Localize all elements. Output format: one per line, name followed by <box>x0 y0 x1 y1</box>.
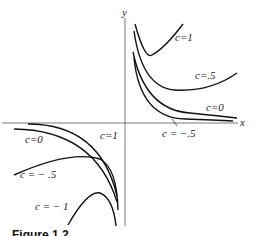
label-c1-right: c=1 <box>175 31 193 43</box>
figure-caption: Figure 1.2 <box>12 228 69 236</box>
label-c0-right: c=0 <box>206 101 224 113</box>
y-axis-label: y <box>122 6 127 18</box>
label-c1-left: c=1 <box>100 129 118 141</box>
label-c05-right: c=.5 <box>195 69 216 81</box>
figure: y x c=1 c=.5 c=0 c = −.5 c=0 c=1 c = − .… <box>0 0 256 236</box>
label-c0-left: c=0 <box>25 133 43 145</box>
label-cm1-left: c = − 1 <box>35 200 68 212</box>
label-cm05-right: c = −.5 <box>162 127 195 139</box>
label-pointer <box>172 119 177 126</box>
curve-cm1-left <box>68 193 116 226</box>
x-axis-label: x <box>240 116 245 128</box>
label-cm05-left: c = − .5 <box>20 168 56 180</box>
